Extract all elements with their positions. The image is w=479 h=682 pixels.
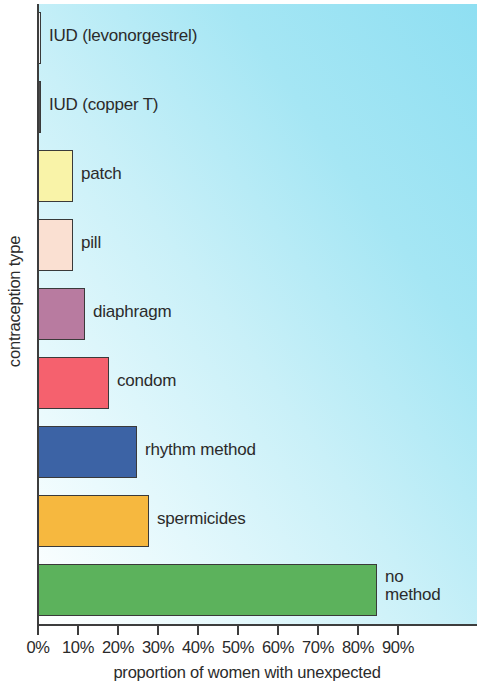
y-axis-line [37,4,39,624]
x-axis-tick-label: 90% [382,638,414,657]
x-axis-tick [77,626,79,635]
x-axis-tick [277,626,279,635]
x-axis-tick [117,626,119,635]
bar-label: patch [81,165,122,183]
x-axis-tick [197,626,199,635]
x-axis-tick-label: 80% [342,638,374,657]
bar-label: rhythm method [145,441,256,459]
x-axis-tick-label: 10% [62,638,94,657]
bar [37,564,377,616]
x-axis-tick [357,626,359,635]
y-axis-title: contraception type [5,192,24,412]
x-axis-tick-label: 50% [222,638,254,657]
bar-label: pill [81,234,101,252]
bar [37,426,137,478]
bar [37,495,149,547]
bar-label: spermicides [157,510,246,528]
bar [37,150,73,202]
bar [37,288,85,340]
x-axis-line [37,624,477,626]
x-axis-title: proportion of women with unexpected [37,663,457,682]
x-axis-tick [157,626,159,635]
x-axis-tick [37,626,39,635]
x-axis-tick-label: 60% [262,638,294,657]
bar-label: condom [117,372,176,390]
bar-label: IUD (copper T) [49,96,158,114]
x-axis-tick-label: 40% [182,638,214,657]
x-axis-tick-label: 0% [26,638,49,657]
x-axis-tick [397,626,399,635]
bar [37,219,73,271]
bar [37,357,109,409]
x-axis-tick-label: 20% [102,638,134,657]
bar-label: diaphragm [93,303,172,321]
x-axis-tick [317,626,319,635]
bar-label: no method [385,568,441,605]
x-axis-tick [237,626,239,635]
bar-label: IUD (levonorgestrel) [49,27,197,45]
x-axis-tick-label: 70% [302,638,334,657]
x-axis-tick-label: 30% [142,638,174,657]
